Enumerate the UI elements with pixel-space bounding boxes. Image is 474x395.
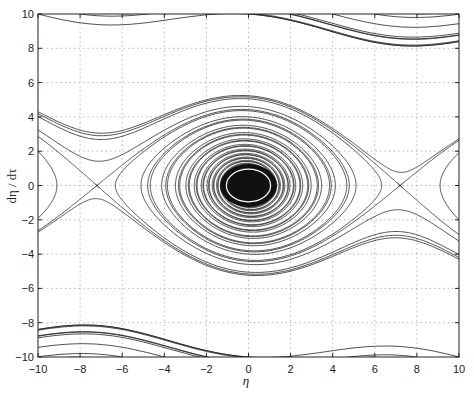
y-tick-label: 0 xyxy=(28,180,34,192)
trajectory xyxy=(38,14,471,47)
x-tick-label: −6 xyxy=(116,363,129,375)
trajectory xyxy=(417,9,472,14)
trajectory xyxy=(206,13,471,45)
trajectory xyxy=(26,343,38,345)
trajectory xyxy=(459,100,471,104)
trajectory xyxy=(440,144,470,220)
y-tick-label: −4 xyxy=(21,248,34,260)
trajectory xyxy=(26,325,459,358)
trajectory xyxy=(26,263,38,267)
trajectory xyxy=(122,5,204,14)
trajectory xyxy=(400,185,470,243)
y-tick-label: −8 xyxy=(21,317,34,329)
y-axis-label: dη / dτ xyxy=(4,168,19,203)
trajectory xyxy=(249,14,471,46)
trajectory xyxy=(459,79,472,82)
phase-portrait-plot: −10−8−6−4−20246810 −10−8−6−4−20246810 η … xyxy=(0,0,474,395)
x-tick-label: 2 xyxy=(288,363,294,375)
trajectory xyxy=(25,326,290,358)
trajectory xyxy=(459,26,471,28)
trajectory xyxy=(459,104,471,108)
trajectory xyxy=(28,334,417,365)
x-tick-label: 6 xyxy=(372,363,378,375)
focus-dense-region xyxy=(220,164,277,207)
y-tick-label: 2 xyxy=(28,145,34,157)
trajectory xyxy=(26,267,38,271)
trajectory xyxy=(459,86,471,89)
trajectory xyxy=(26,264,38,268)
trajectory xyxy=(459,93,470,96)
trajectory xyxy=(27,354,123,359)
phase-portrait-figure: −10−8−6−4−20246810 −10−8−6−4−20246810 η … xyxy=(0,0,474,395)
x-tick-label: 10 xyxy=(453,363,465,375)
trajectory xyxy=(28,270,39,274)
trajectory xyxy=(459,159,470,186)
y-tick-label: 10 xyxy=(22,8,34,20)
trajectory xyxy=(27,333,38,335)
y-tick-label: 8 xyxy=(28,42,34,54)
trajectory xyxy=(459,36,470,38)
y-tick-label: 6 xyxy=(28,77,34,89)
x-tick-label: −10 xyxy=(29,363,48,375)
trajectory xyxy=(27,129,97,187)
y-tick-label: 4 xyxy=(28,111,34,123)
y-tick-label: −6 xyxy=(21,282,34,294)
trajectory xyxy=(333,14,472,27)
x-tick-label: 4 xyxy=(330,363,336,375)
trajectory xyxy=(459,98,470,102)
trajectory xyxy=(27,332,333,364)
y-tick-label: −2 xyxy=(21,214,34,226)
y-tick-label: −10 xyxy=(15,351,34,363)
trajectory xyxy=(459,142,471,151)
trajectory xyxy=(26,302,38,305)
x-tick-label: 8 xyxy=(414,363,420,375)
trajectory xyxy=(459,102,471,106)
x-axis-label: η xyxy=(243,373,249,388)
trajectory xyxy=(459,66,471,69)
trajectory xyxy=(80,6,469,37)
x-tick-label: −2 xyxy=(200,363,213,375)
stable-focus-center xyxy=(220,164,277,207)
trajectory xyxy=(164,8,470,40)
x-tick-label: −8 xyxy=(74,363,87,375)
trajectory xyxy=(25,344,164,357)
x-tick-label: −4 xyxy=(158,363,171,375)
trajectory xyxy=(27,275,38,278)
trajectory xyxy=(375,13,471,18)
